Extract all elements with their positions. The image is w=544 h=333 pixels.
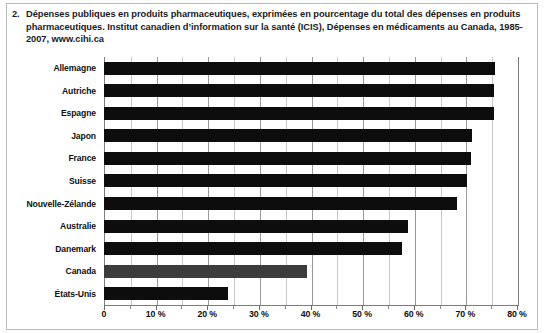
bar-row <box>104 125 517 148</box>
x-axis-tick <box>233 305 234 309</box>
x-axis-label: 60 % <box>404 309 424 319</box>
bar-row <box>104 192 517 215</box>
bar-row <box>104 80 517 103</box>
bar-espagne <box>104 107 494 120</box>
bars-layer <box>104 57 517 305</box>
y-axis-label: Danemark <box>55 244 96 254</box>
bar-row <box>104 170 517 193</box>
x-axis-tick <box>465 305 466 310</box>
x-axis-tick <box>414 305 415 310</box>
x-axis-tick <box>362 305 363 310</box>
bar-chart: AllemagneAutricheEspagneJaponFranceSuiss… <box>0 52 544 327</box>
x-axis-tick <box>130 305 131 309</box>
bar-france <box>104 152 471 165</box>
bar-row <box>104 237 517 260</box>
x-axis-label: 40 % <box>301 309 321 319</box>
y-axis-label: Nouvelle-Zélande <box>26 199 96 209</box>
bar-row <box>104 215 517 238</box>
caption-number: 2. <box>12 8 20 21</box>
y-axis-label: États-Unis <box>55 289 97 299</box>
bar-canada <box>104 265 307 278</box>
y-axis-label: Japon <box>71 131 96 141</box>
x-axis-tick <box>336 305 337 309</box>
y-axis-label: France <box>68 153 96 163</box>
bar-nouvelle-z-lande <box>104 197 457 210</box>
x-axis-label: 80 % <box>507 309 527 319</box>
x-axis-tick <box>517 305 518 310</box>
bar-row <box>104 147 517 170</box>
x-axis-tick <box>181 305 182 309</box>
x-axis-label: 0 <box>102 309 107 319</box>
y-axis-label: Suisse <box>69 176 96 186</box>
x-axis-tick <box>388 305 389 309</box>
x-axis-label: 70 % <box>456 309 476 319</box>
x-axis-tick <box>259 305 260 310</box>
bar-autriche <box>104 84 494 97</box>
bar--tats-unis <box>104 287 228 300</box>
x-axis-tick <box>285 305 286 309</box>
figure-page: 2.Dépenses publiques en produits pharmac… <box>0 0 544 333</box>
y-axis-label: Allemagne <box>53 63 96 73</box>
x-axis-labels: 010 %20 %30 %40 %50 %60 %70 %80 % <box>0 309 544 327</box>
figure-caption: 2.Dépenses publiques en produits pharmac… <box>26 8 526 46</box>
bar-row <box>104 57 517 80</box>
bar-danemark <box>104 242 402 255</box>
x-axis-label: 50 % <box>352 309 372 319</box>
bar-japon <box>104 129 472 142</box>
x-axis-label: 20 % <box>197 309 217 319</box>
x-axis-tick <box>207 305 208 310</box>
x-axis-tick <box>156 305 157 310</box>
x-axis-label: 30 % <box>249 309 269 319</box>
y-axis-label: Autriche <box>62 86 96 96</box>
bar-row <box>104 282 517 305</box>
caption-text: Dépenses publiques en produits pharmaceu… <box>26 9 523 44</box>
x-axis-tick <box>311 305 312 310</box>
bar-row <box>104 260 517 283</box>
bar-suisse <box>104 174 467 187</box>
bar-australie <box>104 220 408 233</box>
x-axis-tick <box>440 305 441 309</box>
x-axis-tick <box>104 305 105 310</box>
bar-row <box>104 102 517 125</box>
x-axis-tick <box>491 305 492 309</box>
y-axis-label: Canada <box>66 266 96 276</box>
bar-allemagne <box>104 62 495 75</box>
y-axis-label: Australie <box>60 221 96 231</box>
x-axis-label: 10 % <box>146 309 166 319</box>
y-axis-labels: AllemagneAutricheEspagneJaponFranceSuiss… <box>0 57 100 305</box>
y-axis-label: Espagne <box>61 108 96 118</box>
